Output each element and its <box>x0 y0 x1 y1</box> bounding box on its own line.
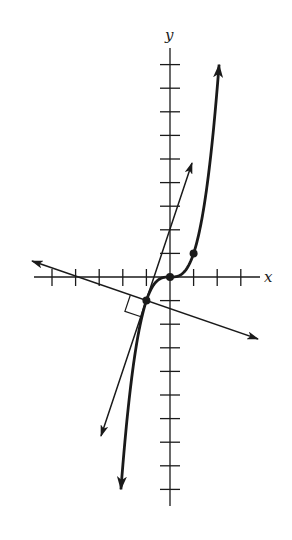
point-of-tangency <box>142 297 150 305</box>
y-axis-label: y <box>164 26 174 44</box>
curve-point-1-1 <box>190 249 198 257</box>
x-axis-label: x <box>264 268 273 286</box>
y-axis: y <box>160 26 180 506</box>
origin-point <box>166 273 174 281</box>
graph-canvas: x y <box>0 0 292 540</box>
